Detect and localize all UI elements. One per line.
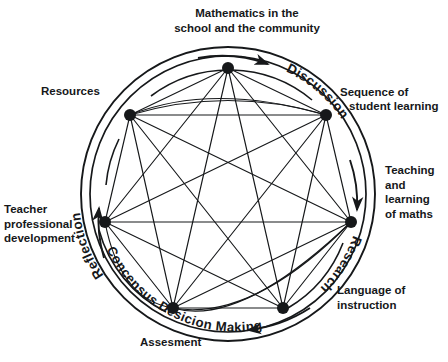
label-resources: Resources (41, 84, 127, 99)
node-dot-2 (345, 216, 357, 228)
label-sequence-line1: Sequence of (340, 86, 408, 98)
edge-0-6 (130, 68, 228, 115)
arrow-reflection-upward (98, 208, 104, 258)
inner-arc-left (106, 139, 119, 185)
label-teaching-and-learning-of-maths: Teaching and learning of maths (385, 163, 447, 222)
label-language-of-instruction: Language of instruction (337, 283, 437, 312)
node-dot-6 (124, 109, 136, 121)
label-teacher-professional-development: Teacher professional development (4, 202, 92, 246)
edge-3-5 (105, 222, 283, 308)
edge-2-4 (173, 222, 351, 308)
edge-1-3 (283, 115, 326, 308)
arrow-research-downward (350, 160, 357, 210)
node-dot-0 (222, 62, 234, 74)
edge-3-6 (130, 115, 283, 308)
diagram-canvas: Reflection Discussion Research Concensus… (0, 0, 448, 362)
edge-1-4 (173, 115, 326, 308)
node-dot-3 (277, 302, 289, 314)
edge-1-5 (105, 115, 326, 222)
label-assessment: Assesment (140, 335, 248, 350)
node-dot-5 (99, 216, 111, 228)
edge-2-6 (130, 115, 351, 222)
node-dot-1 (320, 109, 332, 121)
label-sequence-of-student-learning: Sequence of student learning (340, 70, 446, 129)
node-connection-edges (105, 68, 351, 308)
label-sequence-line2: student learning (340, 99, 446, 114)
label-mathematics-school-community: Mathematics in the school and the commun… (164, 6, 330, 35)
arrow-discussion-clockwise (198, 56, 268, 64)
